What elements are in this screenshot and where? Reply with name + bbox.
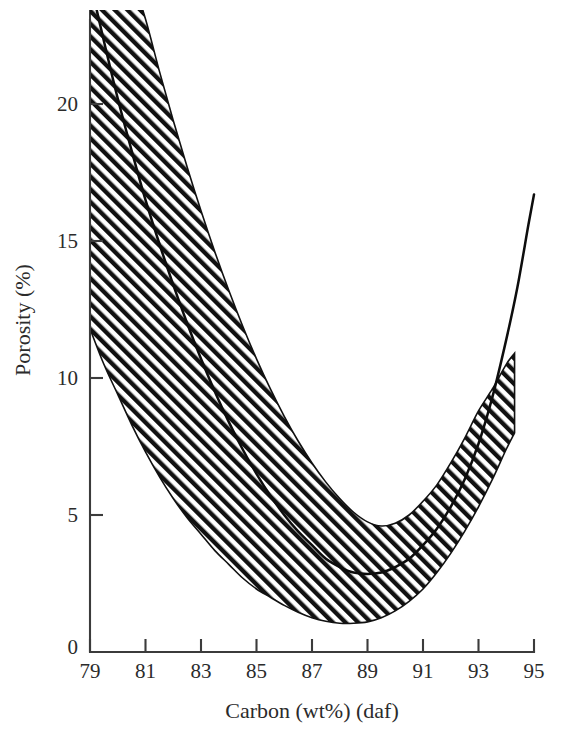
y-tick-labels: 05101520 [57,92,78,659]
x-axis-title: Carbon (wt%) (daf) [225,698,399,723]
x-tick-label: 95 [524,659,545,683]
x-tick-label: 93 [468,659,489,683]
x-tick-marks [90,639,534,652]
x-tick-label: 87 [302,659,323,683]
x-tick-label: 83 [191,659,212,683]
y-tick-label: 10 [57,366,78,390]
x-tick-label: 85 [246,659,267,683]
porosity-carbon-chart: 798183858789919395 05101520 Carbon (wt%)… [0,0,581,743]
x-tick-label: 79 [80,659,101,683]
scatter-band [90,0,515,623]
x-tick-label: 81 [135,659,156,683]
x-tick-label: 89 [357,659,378,683]
y-axis-title: Porosity (%) [10,264,35,376]
y-tick-label: 5 [68,503,79,527]
scatter-band-group [90,0,515,623]
x-tick-labels: 798183858789919395 [80,659,545,683]
y-tick-label: 15 [57,229,78,253]
y-tick-label: 0 [68,635,79,659]
y-tick-label: 20 [57,92,78,116]
x-tick-label: 91 [413,659,434,683]
chart-svg: 798183858789919395 05101520 Carbon (wt%)… [0,0,581,743]
